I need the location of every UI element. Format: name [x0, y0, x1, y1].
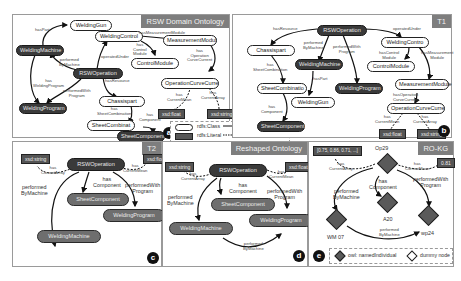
- legend-dummy-node: dummy node: [420, 252, 450, 258]
- panel-title: RO-KG: [418, 142, 453, 155]
- panel-rsw-domain-ontology: RSW Domain Ontology WeldingGun WeldingMa…: [12, 14, 230, 138]
- node-welding-machine: WeldingMachine: [295, 59, 343, 70]
- edge-label-performed-by-machine: performed ByMachine: [167, 194, 194, 206]
- panel-badge-e: e: [313, 250, 325, 262]
- label-wm07: WM 07: [327, 234, 344, 240]
- edge-label-has-current-array: has CurrentArray: [413, 115, 437, 124]
- edge-label-has-component: has Component: [369, 178, 397, 190]
- edge-label-has-part: hasPart: [313, 77, 327, 82]
- literal-string: xsd:string: [21, 154, 50, 164]
- edge-label-performed-by-machine-2: performed ByMachine: [379, 228, 400, 237]
- node-welding-program: WeldingProgram: [103, 209, 165, 222]
- node-rsw-operation: RSWOperation: [209, 164, 267, 177]
- individual-op29: [377, 153, 398, 174]
- panel-ro-kg: RO-KG [0.75, 0.86, 0.71, ...] Op29 0.81 …: [308, 141, 454, 267]
- edge-label-performed-with-program: performedWith Program: [125, 182, 160, 194]
- edge-label-has-control-module: has Control Module: [133, 43, 147, 57]
- node-sheet-combination: SheetCombinat: [87, 120, 135, 131]
- edge-label-has-measurement-module: hasMeasurement Module: [421, 51, 453, 60]
- dummy-node-swatch: [406, 250, 417, 261]
- edge-label-has-operation-curve: hasOperation CurveCurrent: [393, 93, 418, 102]
- node-sheet-component: SheetComponent: [211, 198, 275, 211]
- node-chassis-part: Chassispart: [247, 45, 295, 56]
- node-chassis-part: Chassispart: [99, 96, 145, 107]
- node-welding-control: WeldingControl: [95, 31, 143, 42]
- node-sheet-component: SheetComponent: [67, 193, 129, 206]
- edge-label-performed-with-program: performedWith Program: [413, 176, 448, 188]
- panel-title: T1: [432, 15, 451, 28]
- node-welding-gun: WeldingGun: [291, 97, 335, 108]
- panel-badge-d: d: [293, 250, 305, 262]
- node-operation-curve: OperationCurveCurre: [161, 78, 219, 89]
- edge-label-has-current-array: has CurrentArray: [329, 162, 353, 171]
- edge-label-has-current-mean: has CurrentMean: [405, 162, 429, 171]
- edge-label-has-control-module: hasControl Module: [379, 51, 399, 60]
- edge-label-performed-by-machine: performed ByMachine: [333, 188, 360, 200]
- node-welding-control: WeldingContro: [381, 37, 429, 48]
- node-control-module: ControlModule: [131, 58, 179, 69]
- node-measurement-module: MeasurementModul: [163, 35, 217, 46]
- edge-label-has-component: has Component: [139, 113, 161, 122]
- node-sheet-combination: SheetCombinatio: [257, 83, 307, 94]
- panel-badge-c: c: [147, 252, 159, 264]
- edge-label-has-current-array: has CurrentArray: [181, 172, 205, 181]
- edge-label-has-measurement-module: hasMeasurementModule: [139, 31, 185, 36]
- panel-t1: T1 RSWOperation Chassispart WeldingMachi…: [232, 14, 452, 138]
- node-welding-program: WeldingProgram: [335, 83, 383, 94]
- edge-label-has-component: has Component: [261, 105, 283, 114]
- edge-label-operated-under: operatedUnder: [393, 27, 421, 32]
- panel-title: Reshaped Ontology: [231, 142, 307, 155]
- node-operation-curve: OperationCurveCurre: [387, 103, 445, 114]
- edge-label-performed-by-machine: performed ByMachine: [21, 184, 48, 196]
- legend-named-individual: owl: namedIndividual: [348, 252, 396, 258]
- legend-individual-dummy: owl: namedIndividual dummy node: [329, 248, 453, 264]
- node-welding-machine: WeldingMachine: [37, 230, 101, 243]
- individual-a20: [377, 192, 398, 213]
- edge-label-has-current-mean: has CurrentMean: [375, 115, 399, 124]
- node-welding-machine: WeldingMachine: [169, 222, 233, 235]
- node-sheet-component: SheetComponent: [257, 121, 305, 132]
- edge-label-performed-by-machine: performed ByMachine: [59, 58, 80, 67]
- panel-title: RSW Domain Ontology: [141, 15, 229, 28]
- edge-label-performed-by-machine: performed ByMachine: [303, 41, 324, 50]
- panel-reshaped-ontology: Reshaped Ontology xsd:string RSWOperatio…: [162, 141, 308, 267]
- edge-label-performed-with-program: performedWith Program: [333, 45, 360, 54]
- individual-wm07: [326, 209, 347, 230]
- edge-label-has-resource: hasResource: [105, 79, 130, 84]
- literal-mean: 0.81: [437, 158, 455, 168]
- edge-label-has-welding-program: has WeldingProgram: [33, 79, 64, 88]
- node-rsw-operation: RSWOperation: [67, 158, 125, 171]
- edge-label-has-current-array: has CurrentArray: [41, 166, 65, 175]
- edge-label-has-component: has Component: [93, 176, 121, 188]
- node-welding-program: WeldingProgram: [19, 103, 67, 114]
- edge-label-has-current-array: has CurrentArray: [201, 91, 225, 100]
- edge-label-has-current-mean: has CurrentMean: [123, 164, 147, 173]
- edge-label-has-component: has Component: [229, 182, 257, 194]
- edge-label-has-resource: hasResource: [273, 27, 298, 32]
- edge-label-has-operation-curve: has Operation CurveCurrent: [187, 49, 212, 63]
- label-wp24: wp24: [421, 230, 434, 236]
- literal-float: xsd:float: [158, 109, 185, 119]
- node-measurement-module: MeasurementModule: [395, 79, 449, 90]
- node-control-module: ControlModule: [367, 61, 415, 72]
- node-welding-machine: WeldingMachine: [16, 45, 64, 56]
- panel-t2: T2 xsd:string RSWOperation xsd:float She…: [12, 141, 162, 267]
- panel-badge-b: b: [438, 125, 450, 137]
- edge-label-has-sheet-combination: has SheetCombination: [253, 63, 287, 72]
- literal-float: xsd:float: [379, 129, 406, 139]
- node-rsw-operation: RSWOperation: [317, 25, 367, 36]
- individual-wp24: [418, 205, 439, 226]
- label-op29: Op29: [375, 145, 388, 151]
- node-welding-program: WeldingProgram: [249, 214, 313, 227]
- edge-label-performed-by-machine-2: performed ByMachine: [243, 242, 264, 251]
- label-a20: A20: [383, 216, 393, 222]
- edge-label-has-part: hasPart: [35, 28, 49, 33]
- named-individual-swatch: [334, 250, 345, 261]
- edge-label-has-current-mean: has CurrentMean: [269, 170, 293, 179]
- edge-label-performed-with-program: performedWith Program: [267, 188, 302, 200]
- edge-label-operated-under: operatedUnder: [101, 55, 129, 60]
- edge-label-performed-with-program: performedWith Program: [63, 89, 90, 98]
- edge-label-has-current-mean: has CurrentMean: [167, 93, 191, 102]
- literal-array: [0.75, 0.86, 0.71, ...]: [313, 146, 362, 156]
- edge-label-has-sheet-combination: has SheetCombination: [97, 107, 131, 116]
